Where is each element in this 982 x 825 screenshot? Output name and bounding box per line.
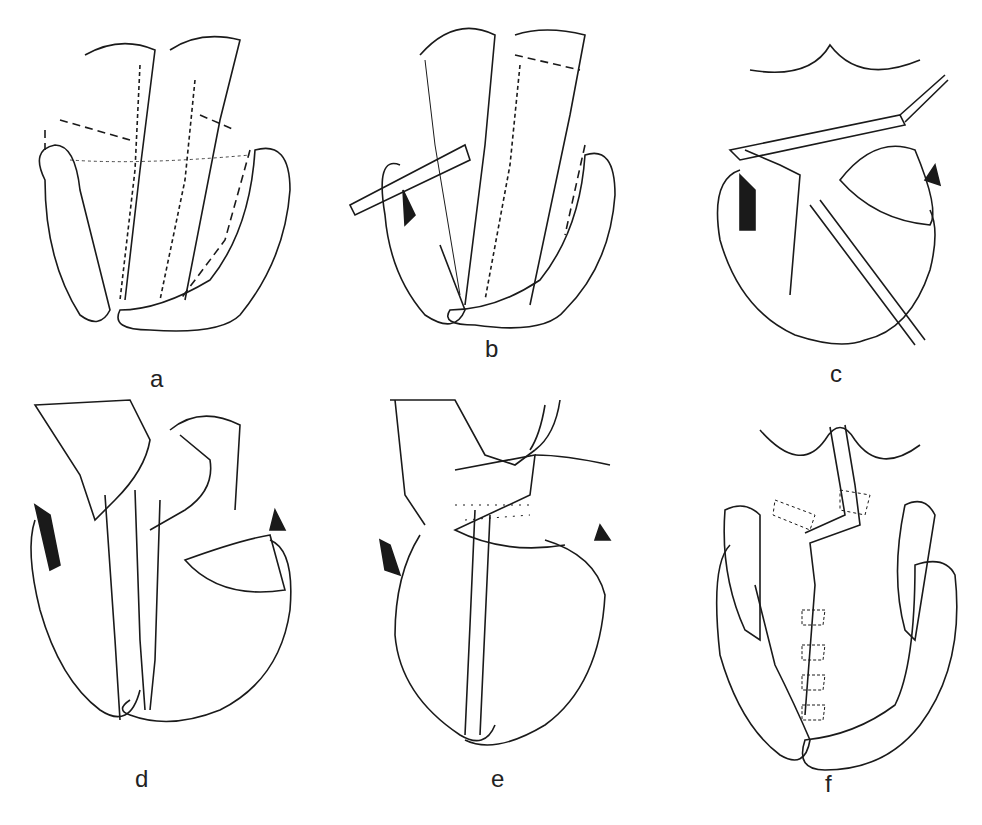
panel-a-drawing [20,30,310,350]
panel-c: c [700,40,970,350]
panel-e-drawing [365,395,645,765]
panel-b: b [345,15,645,350]
panel-label-b: b [485,335,498,363]
panel-e: e [365,395,645,765]
panel-label-e: e [491,765,504,793]
panel-label-c: c [830,360,842,388]
panel-label-a: a [150,365,163,393]
panel-f-drawing [715,415,980,775]
panel-c-drawing [700,40,970,350]
panel-label-d: d [135,765,148,793]
panel-label-f: f [825,770,832,798]
panel-b-drawing [345,15,645,350]
panel-d: d [20,390,320,760]
panel-d-drawing [20,390,320,760]
panel-a: a [20,30,310,350]
panel-f: f [715,415,980,775]
